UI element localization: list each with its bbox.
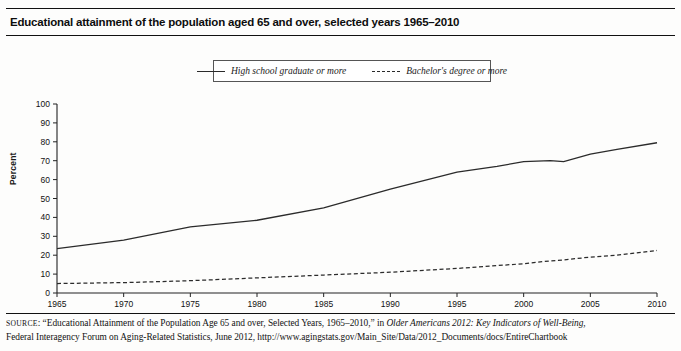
svg-text:1980: 1980 bbox=[248, 299, 267, 309]
y-axis-ticks: 0102030405060708090100 bbox=[36, 99, 57, 298]
series-line-high-school bbox=[57, 143, 657, 249]
svg-text:80: 80 bbox=[41, 137, 51, 147]
chart-plot-area: 0102030405060708090100 19651970197519801… bbox=[0, 0, 681, 351]
source-note: SOURCE: “Educational Attainment of the P… bbox=[6, 313, 675, 343]
svg-text:1995: 1995 bbox=[448, 299, 467, 309]
page-title: Educational attainment of the population… bbox=[6, 16, 459, 28]
legend-label-high-school: High school graduate or more bbox=[231, 66, 346, 76]
svg-text:60: 60 bbox=[41, 175, 51, 185]
legend-label-bachelors: Bachelor's degree or more bbox=[406, 66, 507, 76]
chart-legend: High school graduate or more Bachelor's … bbox=[213, 60, 491, 82]
svg-text:70: 70 bbox=[41, 156, 51, 166]
source-line-2: Federal Interagency Forum on Aging-Relat… bbox=[6, 331, 675, 344]
source-text-1: : “Educational Attainment of the Populat… bbox=[38, 318, 387, 328]
x-axis-ticks: 1965197019751980198519901995200020052010 bbox=[48, 293, 667, 309]
chart-svg: 0102030405060708090100 19651970197519801… bbox=[0, 0, 681, 351]
svg-text:90: 90 bbox=[41, 118, 51, 128]
series-line-bachelors bbox=[57, 250, 657, 283]
svg-text:0: 0 bbox=[45, 288, 50, 298]
y-axis-title: Percent bbox=[8, 152, 18, 185]
svg-text:20: 20 bbox=[41, 250, 51, 260]
svg-text:2010: 2010 bbox=[648, 299, 667, 309]
legend-item-high-school: High school graduate or more bbox=[197, 66, 346, 76]
svg-text:40: 40 bbox=[41, 212, 51, 222]
svg-text:1965: 1965 bbox=[48, 299, 67, 309]
figure-title-bar: Educational attainment of the population… bbox=[6, 8, 675, 36]
legend-item-bachelors: Bachelor's degree or more bbox=[372, 66, 507, 76]
svg-text:100: 100 bbox=[36, 99, 50, 109]
svg-text:10: 10 bbox=[41, 269, 51, 279]
svg-text:50: 50 bbox=[41, 194, 51, 204]
svg-text:30: 30 bbox=[41, 231, 51, 241]
source-line-1: SOURCE: “Educational Attainment of the P… bbox=[6, 317, 675, 331]
legend-swatch-solid-icon bbox=[197, 71, 225, 72]
svg-text:2005: 2005 bbox=[581, 299, 600, 309]
source-label: SOURCE bbox=[6, 319, 38, 328]
svg-text:1985: 1985 bbox=[314, 299, 333, 309]
svg-text:1970: 1970 bbox=[114, 299, 133, 309]
svg-text:2000: 2000 bbox=[514, 299, 533, 309]
svg-text:1990: 1990 bbox=[381, 299, 400, 309]
legend-swatch-dashed-icon bbox=[372, 71, 400, 72]
svg-text:1975: 1975 bbox=[181, 299, 200, 309]
source-publication-title: Older Americans 2012: Key Indicators of … bbox=[386, 318, 585, 328]
figure-page: Educational attainment of the population… bbox=[0, 0, 681, 351]
